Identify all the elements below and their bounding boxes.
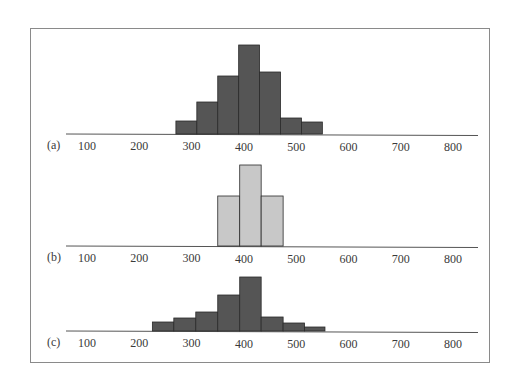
histogram-bar xyxy=(261,317,283,331)
x-tick-label: 300 xyxy=(183,336,201,350)
histogram-panels: (a)100200300400500600700800(b)1002003004… xyxy=(0,0,519,383)
x-tick-label: 500 xyxy=(287,140,305,154)
x-tick-label: 800 xyxy=(444,252,462,266)
panel-label: (b) xyxy=(47,250,61,264)
histogram-bar xyxy=(218,76,239,134)
histogram-bar xyxy=(176,121,197,134)
x-tick-label: 100 xyxy=(78,251,96,265)
panel-c: (c)100200300400500600700800 xyxy=(47,277,478,351)
x-tick-label: 400 xyxy=(235,252,253,266)
histogram-bar xyxy=(301,122,322,134)
histogram-bar xyxy=(152,322,173,331)
x-tick-label: 200 xyxy=(130,251,148,265)
x-tick-label: 600 xyxy=(340,140,358,154)
histogram-bar xyxy=(281,118,302,134)
x-tick-label: 100 xyxy=(78,139,96,153)
histogram-bar xyxy=(261,196,283,246)
x-tick-label: 400 xyxy=(235,337,253,351)
histogram-bar xyxy=(218,196,240,246)
histogram-bar xyxy=(240,165,261,246)
panel-a: (a)100200300400500600700800 xyxy=(47,45,478,154)
x-tick-label: 300 xyxy=(183,251,201,265)
histogram-bar xyxy=(283,323,304,331)
histogram-bar xyxy=(260,72,281,134)
histogram-bar xyxy=(239,45,260,134)
x-tick-label: 600 xyxy=(340,337,358,351)
x-tick-label: 500 xyxy=(287,337,305,351)
x-tick-label: 800 xyxy=(444,140,462,154)
histogram-bar xyxy=(174,318,196,331)
x-tick-label: 600 xyxy=(340,252,358,266)
histogram-bar xyxy=(240,277,261,331)
histogram-bar xyxy=(305,327,325,331)
panel-label: (a) xyxy=(47,138,60,152)
x-tick-label: 400 xyxy=(235,140,253,154)
x-tick-label: 700 xyxy=(392,337,410,351)
x-tick-label: 100 xyxy=(78,336,96,350)
x-tick-label: 500 xyxy=(287,252,305,266)
histogram-bar xyxy=(218,295,240,331)
histogram-bar xyxy=(197,102,218,134)
x-tick-label: 200 xyxy=(130,139,148,153)
x-tick-label: 700 xyxy=(392,252,410,266)
x-tick-label: 300 xyxy=(183,139,201,153)
x-tick-label: 200 xyxy=(130,336,148,350)
x-tick-label: 700 xyxy=(392,140,410,154)
panel-label: (c) xyxy=(47,335,60,349)
panel-b: (b)100200300400500600700800 xyxy=(47,165,478,266)
histogram-bar xyxy=(196,312,218,331)
x-tick-label: 800 xyxy=(444,337,462,351)
